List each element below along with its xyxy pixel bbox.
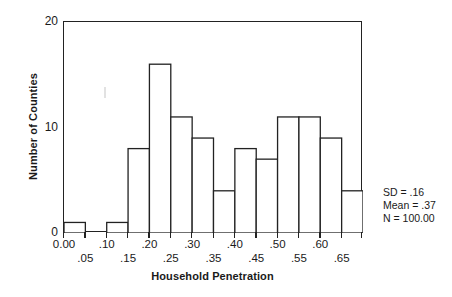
histogram-bar [214, 191, 235, 233]
bars-svg [64, 22, 363, 233]
histogram-bar [128, 149, 149, 233]
x-tick-label: .20 [141, 238, 157, 251]
histogram-figure: Number of Counties 01020 0.00.05.10.15.2… [0, 0, 452, 297]
x-tick-label: .45 [248, 252, 264, 265]
scan-speck [104, 87, 106, 98]
x-tick-label: .15 [120, 252, 136, 265]
histogram-bar [256, 159, 277, 233]
x-tick-label: .50 [270, 238, 286, 251]
histogram-bar [342, 191, 363, 233]
plot-area [63, 21, 362, 232]
stat-n: N = 100.00 [383, 212, 451, 225]
x-tick-label: .65 [334, 252, 350, 265]
y-tick-label: 10 [24, 121, 58, 133]
x-tick-label: .55 [291, 252, 307, 265]
x-tick-label: 0.00 [53, 238, 75, 251]
x-tick-label: .60 [312, 238, 328, 251]
histogram-bar [149, 64, 170, 233]
statistics-block: SD = .16 Mean = .37 N = 100.00 [383, 186, 451, 226]
histogram-bar [278, 117, 299, 233]
x-tick-label: .40 [227, 238, 243, 251]
histogram-bar [235, 149, 256, 233]
x-tick-label: .30 [184, 238, 200, 251]
x-tick-label: .10 [99, 238, 115, 251]
histogram-bars [64, 22, 361, 231]
histogram-bar [192, 138, 213, 233]
stat-mean: Mean = .37 [383, 199, 451, 212]
x-tick-label: .25 [163, 252, 179, 265]
stat-sd: SD = .16 [383, 186, 451, 199]
x-tick-label: .05 [77, 252, 93, 265]
x-tick-label: .35 [206, 252, 222, 265]
histogram-bar [299, 117, 320, 233]
y-tick-label: 20 [24, 15, 58, 27]
histogram-bar [320, 138, 341, 233]
histogram-bar [171, 117, 192, 233]
x-axis-title: Household Penetration [63, 270, 362, 282]
x-axis-tick-labels: 0.00.05.10.15.20.25.30.35.40.45.50.55.60… [0, 236, 452, 270]
